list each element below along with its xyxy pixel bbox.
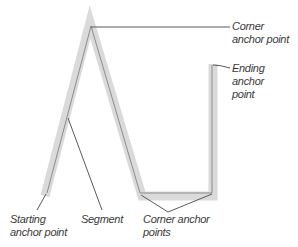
label-ending-anchor: Ending anchor point [232, 62, 264, 101]
label-corner-anchor-top: Corner anchor point [232, 20, 289, 46]
leader-segment [68, 118, 102, 210]
label-segment: Segment [81, 213, 123, 226]
label-line: Segment [81, 213, 123, 226]
label-line: anchor point [232, 33, 289, 46]
label-corner-anchor-bottom: Corner anchor points [143, 213, 209, 239]
label-line: Ending [232, 62, 264, 75]
leader-starting [37, 194, 46, 210]
label-line: points [143, 226, 209, 239]
path-highlight [45, 22, 213, 196]
label-line: Starting [10, 213, 67, 226]
label-line: Corner anchor [143, 213, 209, 226]
label-starting-anchor: Starting anchor point [10, 213, 67, 239]
label-line: Corner [232, 20, 289, 33]
label-line: anchor point [10, 226, 67, 239]
label-line: anchor [232, 75, 264, 88]
label-line: point [232, 88, 264, 101]
